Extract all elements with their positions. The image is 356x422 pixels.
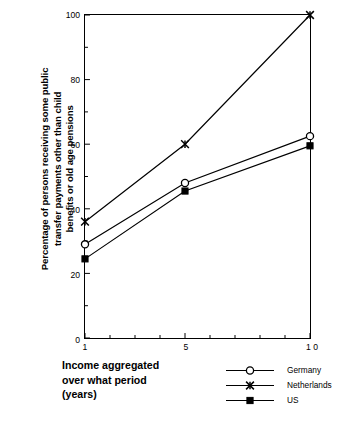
legend-marker-star-x	[224, 378, 276, 393]
data-point-open-circle	[246, 367, 253, 374]
x-tick-label: 5	[183, 343, 188, 352]
x-tick-label: 1	[83, 343, 88, 352]
y-tick-label: 0	[75, 336, 80, 345]
x-axis-title: Income aggregated over what period (year…	[62, 358, 212, 402]
chart-figure: Percentage of persons receiving some pub…	[0, 0, 356, 422]
y-tick-label: 60	[70, 141, 80, 150]
data-point-open-circle	[306, 133, 313, 140]
y-tick-label: 100	[66, 11, 80, 20]
open-circle-marker	[81, 241, 88, 248]
legend-item: Germany	[224, 363, 354, 378]
data-point-star-x	[306, 11, 314, 19]
data-point-star-x	[181, 140, 189, 148]
series-netherlands	[81, 11, 314, 225]
legend-key-swatch	[224, 378, 276, 393]
series-line	[85, 15, 310, 222]
legend-label: US	[287, 396, 299, 405]
series-line	[85, 146, 310, 259]
data-point-filled-square	[247, 397, 253, 403]
filled-square-marker	[307, 143, 313, 149]
legend-item: Netherlands	[224, 378, 354, 393]
legend-key-swatch	[224, 363, 276, 378]
legend-marker-open-circle	[224, 363, 276, 378]
filled-square-marker	[247, 397, 253, 403]
data-point-star-x	[81, 218, 89, 226]
plot-area: 020406080100151 0	[84, 14, 311, 339]
data-point-open-circle	[181, 179, 188, 186]
filled-square-marker	[82, 256, 88, 262]
data-point-open-circle	[81, 241, 88, 248]
open-circle-marker	[246, 367, 253, 374]
series-germany	[81, 133, 313, 248]
legend-marker-filled-square	[224, 393, 276, 408]
series-us	[82, 143, 313, 262]
y-tick-label: 20	[70, 271, 80, 280]
data-point-filled-square	[82, 256, 88, 262]
legend-label: Germany	[287, 366, 321, 375]
y-tick-label: 80	[70, 76, 80, 85]
open-circle-marker	[181, 179, 188, 186]
legend-key-swatch	[224, 393, 276, 408]
data-point-filled-square	[307, 143, 313, 149]
x-tick-label: 1 0	[306, 343, 318, 352]
filled-square-marker	[182, 188, 188, 194]
plot-canvas	[85, 15, 310, 338]
series-line	[85, 136, 310, 244]
legend-label: Netherlands	[287, 381, 332, 390]
data-point-filled-square	[182, 188, 188, 194]
legend-item: US	[224, 393, 354, 408]
open-circle-marker	[306, 133, 313, 140]
chart-legend: GermanyNetherlandsUS	[224, 363, 354, 408]
y-tick-label: 40	[70, 206, 80, 215]
